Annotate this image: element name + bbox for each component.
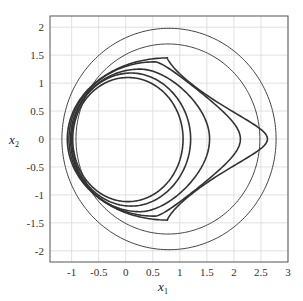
x-axis-label: x1 (157, 279, 168, 296)
x-tick-label: 2.5 (254, 266, 268, 278)
y-tick-labels: 21.510.50-0.5-1-1.5-2 (27, 21, 45, 257)
y-tick-label: 0.5 (30, 105, 44, 117)
y-tick-label: -1 (35, 189, 44, 201)
y-tick-label: -0.5 (27, 161, 45, 173)
y-tick-label: 1 (39, 77, 45, 89)
y-tick-label: -2 (35, 245, 44, 257)
x-tick-label: 1 (177, 266, 183, 278)
x-tick-label: 1.5 (200, 266, 214, 278)
y-tick-label: -1.5 (27, 217, 45, 229)
x-tick-label: 2 (231, 266, 237, 278)
orbit-4-curve (72, 73, 191, 206)
y-tick-label: 0 (39, 133, 45, 145)
x-tick-label: -0.5 (90, 266, 108, 278)
x-tick-labels: -1-0.500.511.522.53 (67, 266, 291, 278)
orbit-5-curve (73, 78, 183, 202)
x-tick-label: 0.5 (146, 266, 160, 278)
y-tick-label: 1.5 (30, 49, 44, 61)
grid-lines (50, 16, 288, 262)
y-axis-label: x2 (8, 132, 19, 149)
y-tick-label: 2 (39, 21, 45, 33)
x-tick-label: 0 (123, 266, 129, 278)
x-tick-label: 3 (285, 266, 291, 278)
phase-portrait-chart: -1-0.500.511.522.53 21.510.50-0.5-1-1.5-… (0, 0, 303, 301)
x-tick-label: -1 (67, 266, 76, 278)
